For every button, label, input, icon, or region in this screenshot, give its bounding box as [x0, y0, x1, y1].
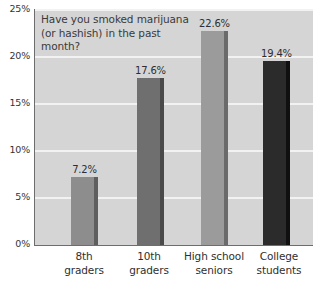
- bars-layer: 7.2% 17.6% 22.6% 19.4%: [35, 9, 313, 245]
- plot-area: Have you smoked marijuana (or hashish) i…: [34, 9, 313, 246]
- bar-fill: [263, 61, 286, 245]
- x-tick-line-1: College: [240, 249, 318, 263]
- x-tick-line-2: students: [240, 263, 318, 277]
- bar-value-label: 7.2%: [72, 164, 97, 175]
- bar-value-label: 17.6%: [135, 65, 166, 76]
- y-axis: 25% 20% 15% 10% 5% 0%: [0, 0, 33, 281]
- y-tick-label-0: 0%: [15, 239, 30, 249]
- y-tick-label-5: 5%: [15, 192, 30, 202]
- x-tick-label-8th-graders: 8th graders: [48, 249, 120, 277]
- y-tick-label-15: 15%: [9, 98, 30, 108]
- x-tick-line-2: graders: [48, 263, 120, 277]
- bar-value-label: 22.6%: [199, 18, 230, 29]
- y-tick-label-10: 10%: [9, 145, 30, 155]
- bar-10th-graders[interactable]: 17.6%: [137, 78, 164, 245]
- bar-fill: [71, 177, 94, 245]
- bar-high-school-seniors[interactable]: 22.6%: [201, 31, 228, 245]
- bar-fill: [137, 78, 160, 245]
- bar-shadow-edge: [286, 61, 290, 245]
- bar-shadow-edge: [94, 177, 98, 245]
- bar-chart: 25% 20% 15% 10% 5% 0% Have you smoked ma…: [0, 0, 325, 281]
- bar-8th-graders[interactable]: 7.2%: [71, 177, 98, 245]
- bar-shadow-edge: [224, 31, 228, 245]
- bar-shadow-edge: [160, 78, 164, 245]
- x-axis: 8th graders 10th graders High school sen…: [34, 249, 313, 281]
- x-tick-line-1: 8th: [48, 249, 120, 263]
- x-tick-label-college-students: College students: [240, 249, 318, 277]
- bar-value-label: 19.4%: [261, 48, 292, 59]
- bar-fill: [201, 31, 224, 245]
- y-tick-label-25: 25%: [9, 4, 30, 14]
- y-tick-label-20: 20%: [9, 51, 30, 61]
- bar-college-students[interactable]: 19.4%: [263, 61, 290, 245]
